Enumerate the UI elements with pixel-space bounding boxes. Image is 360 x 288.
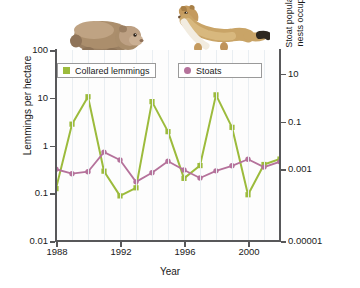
gridline [248,50,249,241]
gridline [184,50,185,241]
gridline [168,50,169,241]
gridline [136,50,137,241]
y-tick-right [281,169,286,171]
y-tick-label-left: 0.1 [4,187,48,198]
gridline [120,50,121,241]
y-tick-label-right: 0.00001 [288,235,348,246]
plot-area [56,50,280,241]
y-axis-right-title-line1: Stoat population (number of lemming [284,0,295,60]
y-tick-label-right: 10 [288,68,348,79]
y-tick-label-left: 0.01 [4,235,48,246]
y-tick-left [50,50,55,52]
gridline [152,50,153,241]
y-tick-left [50,241,55,243]
y-axis-left-title: Lemmings per hectare [22,41,33,171]
x-tick-label: 2000 [229,246,269,257]
x-axis-title: Year [110,266,230,277]
legend-label-stoats: Stoats [196,66,222,76]
y-tick-right [281,122,286,124]
y-axis-right-title: Stoat population (number of lemming nest… [284,0,300,60]
y-tick-left [50,98,55,100]
legend-label-collared-lemmings: Collared lemmings [75,66,150,76]
legend-item-collared-lemmings[interactable]: Collared lemmings [57,63,156,78]
y-axis-right-title-line2: nests occupied by stoat per hectare) [295,0,306,60]
y-tick-right [281,241,286,243]
y-tick-left [50,146,55,148]
y-tick-left [50,193,55,195]
gridline [72,50,73,241]
lemming-stoat-population-chart: 100 10 1 0.1 0.01 10 0.1 0.001 0.00001 1… [0,0,360,288]
gridline [232,50,233,241]
gridline [200,50,201,241]
y-tick-label-right: 0.001 [288,163,348,174]
gridline [88,50,89,241]
y-tick-right [281,74,286,76]
x-tick-label: 1988 [37,246,77,257]
legend-marker-circle-icon [184,67,191,74]
legend-item-stoats[interactable]: Stoats [178,63,262,78]
gridline [104,50,105,241]
gridline [216,50,217,241]
legend-marker-square-icon [63,67,70,74]
x-tick-label: 1996 [165,246,205,257]
y-axis-right-line [279,49,281,242]
y-tick-label-right: 0.1 [288,116,348,127]
x-tick-label: 1992 [101,246,141,257]
gridline [264,50,265,241]
